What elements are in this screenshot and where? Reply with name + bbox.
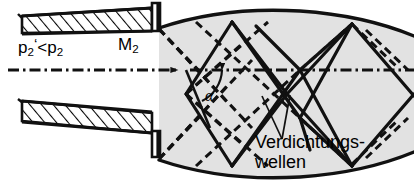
alpha-label: α [205,88,213,104]
compression-waves-label: Verdichtungs- wellen [255,132,365,172]
diagram-canvas: p2‘<p2 M2 α Verdichtungs- wellen [0,0,414,189]
mach-label: M2 [118,36,139,56]
mach-sub: 2 [132,43,138,55]
waves-line-1: Verdichtungs- [255,132,365,152]
pressure-p2-sub: 2 [57,46,63,58]
pressure-label: p2‘<p2 [18,36,63,59]
pressure-rel: <p [37,38,56,57]
mach-m: M [118,35,132,54]
waves-line-2: wellen [255,152,365,172]
